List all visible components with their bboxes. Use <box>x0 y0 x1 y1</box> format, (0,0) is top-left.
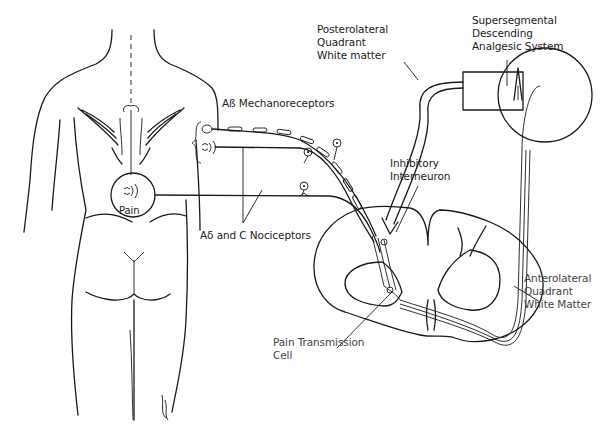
label-line: Supersegmental <box>472 14 563 27</box>
label-line: Pain Transmission <box>273 336 364 349</box>
label-line: White matter <box>317 49 388 62</box>
label-line: Anterolateral <box>524 272 591 285</box>
label-line: Cell <box>273 349 364 362</box>
label-line: Analgesic System <box>472 40 563 53</box>
label-line: Inhibitory <box>390 157 450 170</box>
label-posterolateral: Posterolateral Quadrant White matter <box>317 23 388 62</box>
label-inhibitory-interneuron: Inhibitory Interneuron <box>390 157 450 183</box>
label-pain-transmission-cell: Pain Transmission Cell <box>273 336 364 362</box>
brain-circle <box>498 48 592 142</box>
label-pain: Pain <box>119 204 139 217</box>
adelta-c-fiber-arm <box>215 147 374 242</box>
pain-receptor-icon <box>124 184 138 198</box>
label-line: Interneuron <box>390 170 450 183</box>
abeta-fiber <box>212 127 376 236</box>
label-line: White Matter <box>524 298 591 311</box>
descending-system-box <box>463 72 523 110</box>
posterolateral-pointer <box>404 62 418 80</box>
mechanoreceptor-ending-icon <box>202 125 212 133</box>
label-supersegmental: Supersegmental Descending Analgesic Syst… <box>472 14 563 53</box>
label-mechanoreceptors: Aß Mechanoreceptors <box>222 97 334 110</box>
dorsal-horn-fibers <box>372 236 400 300</box>
label-nociceptors: Aδ and C Nociceptors <box>200 229 311 242</box>
label-line: Posterolateral <box>317 23 388 36</box>
diagram-canvas <box>0 0 609 443</box>
nociceptor-ending-icon <box>202 141 216 154</box>
nociceptor-pointer <box>243 148 262 223</box>
spinal-cord-section <box>314 206 543 341</box>
label-line: Descending <box>472 27 563 40</box>
human-body-outline <box>24 30 218 420</box>
label-line: Quadrant <box>317 36 388 49</box>
label-anterolateral: Anterolateral Quadrant White Matter <box>524 272 591 311</box>
label-line: Quadrant <box>524 285 591 298</box>
